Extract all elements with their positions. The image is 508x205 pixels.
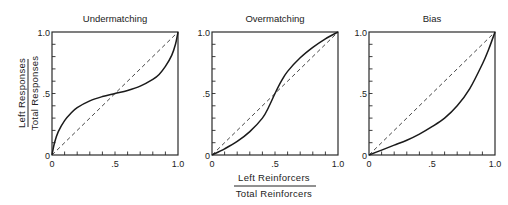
x-axis-label-numerator: Left Reinforcers xyxy=(238,172,310,183)
panel-title: Undermatching xyxy=(83,13,147,24)
x-tick-label: 0 xyxy=(49,159,54,169)
y-tick-label: 1.0 xyxy=(354,28,367,38)
x-tick-label: .5 xyxy=(111,159,119,169)
y-axis-label-numerator: Left Responses xyxy=(16,58,27,128)
y-tick-label: .5 xyxy=(202,89,210,99)
matching-line xyxy=(369,32,495,155)
y-tick-label: .5 xyxy=(359,89,367,99)
x-axis-label: Left Reinforcers Total Reinforcers xyxy=(234,172,316,199)
x-tick-label: .5 xyxy=(428,159,436,169)
y-tick-label: 0 xyxy=(205,151,210,161)
panel-undermatching: Undermatching0.51.00.51.0 xyxy=(37,13,184,169)
y-tick-label: 1.0 xyxy=(197,28,210,38)
y-tick-label: .5 xyxy=(42,89,50,99)
y-axis-label-denominator: Total Responses xyxy=(29,56,40,131)
y-tick-label: 0 xyxy=(45,151,50,161)
panels: Undermatching0.51.00.51.0Overmatching0.5… xyxy=(37,13,501,169)
y-tick-label: 1.0 xyxy=(37,28,50,38)
panel-title: Overmatching xyxy=(245,13,304,24)
x-tick-label: 0 xyxy=(209,159,214,169)
panel-bias: Bias0.51.00.51.0 xyxy=(354,13,501,169)
x-tick-label: 0 xyxy=(366,159,371,169)
x-tick-label: 1.0 xyxy=(172,159,185,169)
x-tick-label: .5 xyxy=(271,159,279,169)
y-axis-label: Left Responses Total Responses xyxy=(16,56,40,131)
panel-title: Bias xyxy=(423,13,442,24)
y-tick-label: 0 xyxy=(362,151,367,161)
panel-overmatching: Overmatching0.51.00.51.0 xyxy=(197,13,344,169)
x-axis-label-denominator: Total Reinforcers xyxy=(236,188,312,199)
matching-figure: Left Responses Total Responses Left Rein… xyxy=(0,0,508,205)
x-tick-label: 1.0 xyxy=(332,159,345,169)
x-tick-label: 1.0 xyxy=(489,159,502,169)
